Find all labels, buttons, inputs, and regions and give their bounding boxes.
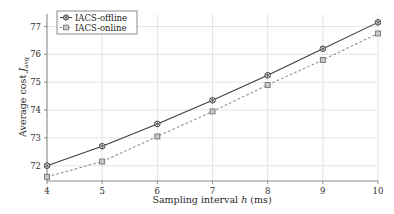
square-icon <box>64 25 69 30</box>
circle-asterisk-icon <box>63 15 68 21</box>
circle-asterisk-marker <box>44 163 50 169</box>
y-tick-label: 72 <box>30 161 41 171</box>
square-marker <box>320 57 325 62</box>
chart-legend: IACS-offline IACS-online <box>57 11 137 34</box>
circle-asterisk-marker <box>155 121 161 127</box>
square-marker <box>100 159 105 164</box>
legend-label-online: IACS-online <box>75 23 127 33</box>
y-tick-label: 75 <box>30 77 41 87</box>
x-tick-label: 5 <box>99 186 104 196</box>
circle-asterisk-marker <box>320 46 326 52</box>
square-marker <box>376 31 381 36</box>
square-marker <box>45 174 50 179</box>
square-marker <box>265 82 270 87</box>
square-marker <box>210 109 215 114</box>
circle-asterisk-marker <box>210 97 216 103</box>
y-tick-label: 73 <box>30 133 41 143</box>
line-chart: 727374757677 45678910 Sampling interval … <box>0 0 394 214</box>
circle-asterisk-marker <box>99 143 105 149</box>
square-marker <box>155 134 160 139</box>
legend-label-offline: IACS-offline <box>75 13 127 23</box>
circle-asterisk-marker <box>375 19 381 25</box>
y-tick-label: 76 <box>30 49 41 59</box>
chart-figure: 727374757677 45678910 Sampling interval … <box>0 0 394 214</box>
x-axis-title: Sampling interval h (ms) <box>152 194 271 205</box>
circle-asterisk-marker <box>265 72 271 78</box>
x-tick-label: 10 <box>373 186 384 196</box>
y-tick-label: 74 <box>30 105 41 115</box>
svg-text:Sampling interval h (ms): Sampling interval h (ms) <box>152 194 271 205</box>
x-tick-label: 4 <box>44 186 49 196</box>
x-tick-label: 9 <box>320 186 325 196</box>
y-tick-label: 77 <box>30 22 41 32</box>
